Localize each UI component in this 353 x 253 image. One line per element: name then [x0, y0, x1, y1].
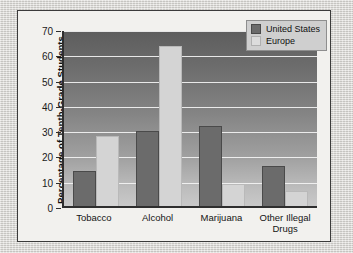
bar-group: [191, 31, 254, 206]
x-axis-label: Marijuana: [190, 212, 254, 234]
plot-wrapper: Percentage of Tenth-Grade Students 01020…: [62, 31, 317, 208]
y-tick-label: 60: [42, 51, 53, 62]
y-tick-label: 10: [42, 177, 53, 188]
y-tick: [56, 208, 61, 209]
legend-item-europe: Europe: [251, 36, 320, 46]
y-tick-label: 50: [42, 76, 53, 87]
y-tick-label: 70: [42, 26, 53, 37]
bar-group: [127, 31, 190, 206]
legend-label-europe: Europe: [266, 36, 295, 46]
bar-united-states: [73, 171, 96, 206]
bar-europe: [159, 46, 182, 206]
y-tick-label: 40: [42, 101, 53, 112]
figure-card: Percentage of Tenth-Grade Students 01020…: [17, 10, 331, 242]
bar-united-states: [199, 126, 222, 206]
bar-group: [254, 31, 317, 206]
bar-united-states: [136, 131, 159, 206]
legend-swatch-icon-europe: [251, 36, 261, 46]
x-axis-label-line: Drugs: [253, 223, 317, 234]
y-tick: [56, 82, 61, 83]
y-tick: [56, 157, 61, 158]
x-axis-labels: TobaccoAlcoholMarijuanaOther IllegalDrug…: [62, 212, 317, 234]
legend-item-united-states: United States: [251, 24, 320, 34]
plot-area: [62, 31, 317, 208]
y-tick: [56, 56, 61, 57]
x-axis-label: Alcohol: [126, 212, 190, 234]
y-tick-label: 30: [42, 127, 53, 138]
y-tick: [56, 107, 61, 108]
y-tick: [56, 183, 61, 184]
legend-label-united-states: United States: [266, 24, 320, 34]
chart-legend: United States Europe: [246, 20, 327, 51]
x-axis-label: Tobacco: [62, 212, 126, 234]
y-tick-label: 0: [47, 203, 53, 214]
x-axis-label-line: Marijuana: [190, 212, 254, 223]
y-tick: [56, 132, 61, 133]
legend-swatch-icon-united-states: [251, 24, 261, 34]
bar-europe: [96, 136, 119, 206]
x-axis-label: Other IllegalDrugs: [253, 212, 317, 234]
bar-group: [64, 31, 127, 206]
x-axis-label-line: Other Illegal: [253, 212, 317, 223]
x-axis-label-line: Tobacco: [62, 212, 126, 223]
bar-chart: Percentage of Tenth-Grade Students 01020…: [18, 11, 330, 241]
bar-united-states: [262, 166, 285, 206]
y-tick-label: 20: [42, 152, 53, 163]
y-tick: [56, 31, 61, 32]
bar-europe: [222, 184, 245, 207]
bar-europe: [285, 191, 308, 206]
x-axis-label-line: Alcohol: [126, 212, 190, 223]
bar-groups: [64, 31, 317, 206]
